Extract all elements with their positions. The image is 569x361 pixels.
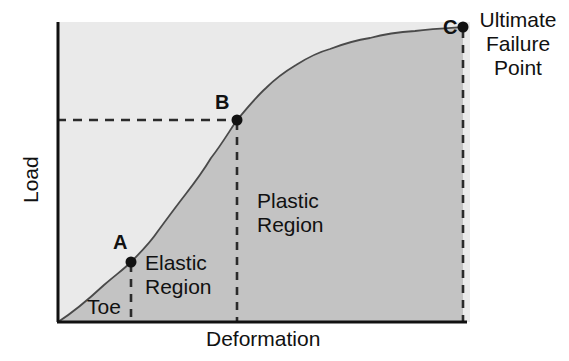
plastic-region-label-line1: Plastic — [257, 190, 319, 213]
point-c-label: C — [443, 17, 457, 39]
ultimate-failure-callout-line2: Failure — [472, 32, 564, 55]
point-b-label: B — [215, 92, 229, 114]
data-point-b — [232, 115, 243, 126]
ultimate-failure-callout-line1: Ultimate — [472, 8, 564, 31]
plastic-region-label-line2: Region — [257, 214, 324, 237]
data-point-c — [458, 22, 469, 33]
figure-canvas: A B C Toe Elastic Region Plastic Region … — [0, 0, 569, 361]
ultimate-failure-callout-line3: Point — [472, 56, 564, 79]
elastic-region-label-line2: Region — [145, 276, 212, 299]
y-axis-title: Load — [20, 156, 43, 203]
data-point-a — [126, 257, 137, 268]
elastic-region-label-line1: Elastic — [145, 252, 207, 275]
point-a-label: A — [113, 232, 127, 254]
x-axis-title: Deformation — [206, 328, 320, 351]
toe-region-label: Toe — [87, 296, 121, 319]
